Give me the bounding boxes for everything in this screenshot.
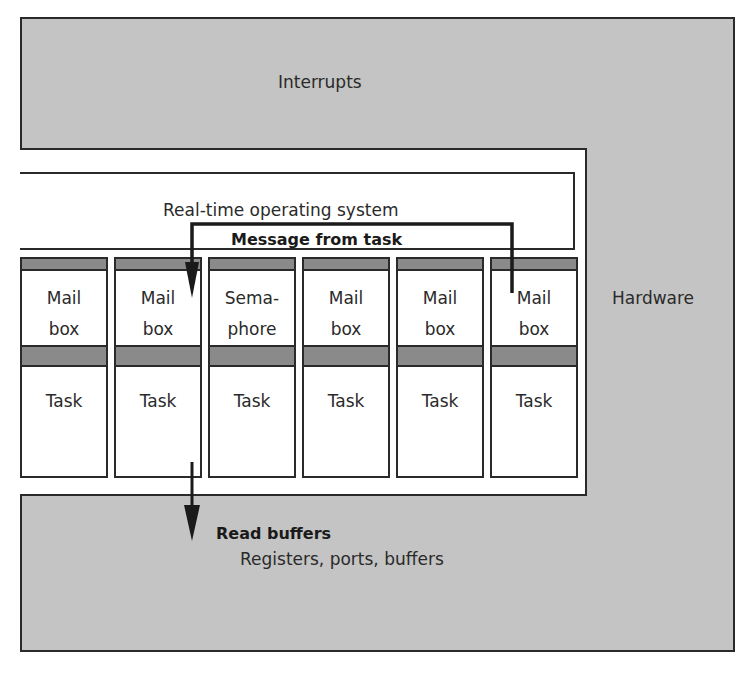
message-arrowhead-icon xyxy=(185,262,199,298)
registers-ports-buffers-label: Registers, ports, buffers xyxy=(240,549,444,569)
read-buffers-label: Read buffers xyxy=(216,524,331,543)
message-arrows xyxy=(0,0,749,673)
read-buffers-arrowhead-icon xyxy=(184,505,200,541)
message-path-arrow xyxy=(192,224,512,293)
